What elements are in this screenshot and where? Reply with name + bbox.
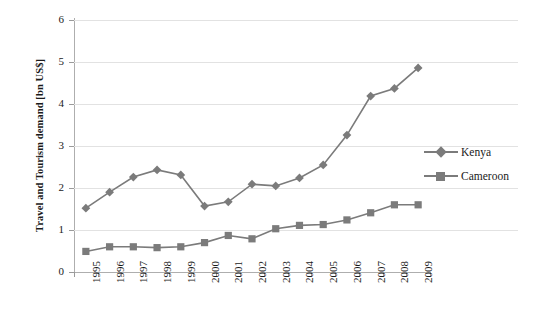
legend-item-kenya[interactable]: Kenya <box>424 140 509 164</box>
data-point-square <box>177 243 184 250</box>
series-kenya <box>81 63 422 212</box>
data-point-diamond <box>129 173 138 182</box>
data-point-square <box>248 235 255 242</box>
cameroon-marker-icon <box>424 170 458 182</box>
data-point-square <box>82 248 89 255</box>
legend: Kenya Cameroon <box>424 140 509 188</box>
data-point-diamond <box>295 174 304 183</box>
data-point-square <box>130 243 137 250</box>
data-point-square <box>272 225 279 232</box>
data-point-square <box>153 244 160 251</box>
data-point-square <box>415 201 422 208</box>
data-point-square <box>367 209 374 216</box>
data-point-square <box>320 221 327 228</box>
data-point-diamond <box>271 182 280 191</box>
legend-label-kenya: Kenya <box>461 146 491 158</box>
data-point-square <box>106 243 113 250</box>
data-point-diamond <box>105 188 114 197</box>
legend-item-cameroon[interactable]: Cameroon <box>424 164 509 188</box>
data-point-square <box>296 222 303 229</box>
data-point-square <box>391 201 398 208</box>
data-point-square <box>201 239 208 246</box>
data-point-diamond <box>153 166 162 175</box>
data-point-diamond <box>366 92 375 101</box>
data-point-square <box>343 216 350 223</box>
data-point-diamond <box>81 204 90 213</box>
series-cameroon <box>82 201 421 255</box>
chart-container: Travel and Tourism demand [bn US$] 01234… <box>0 0 535 333</box>
data-point-square <box>225 232 232 239</box>
legend-label-cameroon: Cameroon <box>461 170 509 182</box>
kenya-marker-icon <box>424 146 458 158</box>
